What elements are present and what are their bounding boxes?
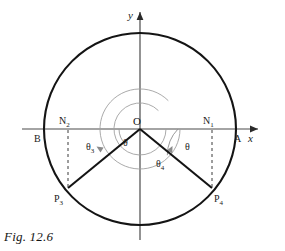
radius-op3 <box>68 129 140 188</box>
point-n2-letter: N <box>59 115 66 126</box>
point-p4-subscript: 4 <box>220 199 224 207</box>
y-axis-label: y <box>127 9 133 21</box>
point-n1-letter: N <box>203 115 210 126</box>
point-b-label: B <box>34 133 41 144</box>
angle-theta4-label: θ4 <box>156 158 165 172</box>
angle-theta3-label: θ3 <box>86 141 95 155</box>
angle-theta4-subscript: 4 <box>161 164 165 172</box>
point-p3-subscript: 3 <box>60 199 64 207</box>
origin-label: O <box>133 115 141 127</box>
point-n1-label: N1 <box>203 115 214 129</box>
radius-op4 <box>140 129 212 188</box>
theta3-arrow <box>97 147 104 153</box>
angle-theta-left-label: θ <box>123 137 128 148</box>
point-n1-subscript: 1 <box>210 121 214 129</box>
angle-theta-right-label: θ <box>185 141 190 152</box>
point-p3-label: P3 <box>54 193 64 207</box>
figure-container: y x O A B N1 N2 P3 P4 θ θ θ3 θ4 Fig. 12.… <box>0 0 285 251</box>
y-axis-arrowhead <box>137 12 144 20</box>
point-p4-label: P4 <box>214 193 224 207</box>
point-n2-subscript: 2 <box>66 121 70 129</box>
figure-caption: Fig. 12.6 <box>4 229 53 245</box>
x-axis-label: x <box>247 132 253 144</box>
point-n2-label: N2 <box>59 115 70 129</box>
point-a-label: A <box>234 133 242 144</box>
geometry-diagram: y x O A B N1 N2 P3 P4 θ θ θ3 θ4 <box>0 0 285 251</box>
angle-theta3-subscript: 3 <box>91 147 95 155</box>
